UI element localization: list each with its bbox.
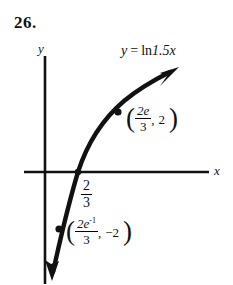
point-marker-lower bbox=[55, 225, 62, 232]
x-intercept-label: 2 3 bbox=[81, 180, 92, 211]
equation-function: ln bbox=[141, 43, 152, 58]
upper-y-value: 2 bbox=[159, 112, 166, 127]
lower-x-fraction: 2e-13 bbox=[75, 217, 98, 246]
upper-x-fraction: 2e3 bbox=[135, 104, 151, 133]
lower-x-numerator: 2e-1 bbox=[75, 217, 98, 232]
intercept-denominator: 3 bbox=[81, 195, 92, 210]
lower-y-value: −2 bbox=[105, 225, 119, 240]
y-axis-label: y bbox=[38, 42, 44, 55]
upper-comma: , bbox=[151, 112, 154, 127]
x-axis-label: x bbox=[214, 164, 220, 177]
upper-x-denominator: 3 bbox=[135, 119, 151, 133]
lower-x-numerator-exponent: -1 bbox=[89, 216, 96, 225]
equation-argument: 1.5x bbox=[152, 43, 176, 58]
upper-point-label: (2e3, 2 ) bbox=[126, 105, 178, 134]
point-marker-upper bbox=[114, 108, 121, 115]
problem-number: 26. bbox=[14, 14, 37, 31]
curve-equation-label: y=ln1.5x bbox=[121, 44, 176, 58]
intercept-fraction: 2 3 bbox=[81, 179, 92, 210]
lower-close-paren: ) bbox=[123, 216, 132, 246]
upper-close-paren: ) bbox=[169, 103, 178, 133]
x-intercept-marker bbox=[75, 169, 81, 175]
lower-x-denominator: 3 bbox=[75, 232, 98, 246]
lower-comma: , bbox=[98, 225, 101, 240]
upper-open-paren: ( bbox=[126, 103, 135, 133]
intercept-numerator: 2 bbox=[81, 179, 92, 195]
equation-equals: = bbox=[127, 43, 141, 58]
lower-point-label: (2e-13, −2 ) bbox=[66, 218, 132, 247]
curve-arrow-down-icon bbox=[45, 260, 59, 281]
lower-x-numerator-base: 2e bbox=[77, 216, 89, 231]
lower-open-paren: ( bbox=[66, 216, 75, 246]
upper-x-numerator: 2e bbox=[135, 104, 151, 119]
